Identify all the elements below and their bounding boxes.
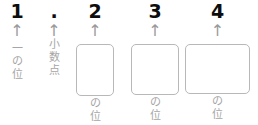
arrow-up-icon-tenths: ↑ <box>76 22 114 40</box>
decimal-place-value-diagram: 1 ↑ 一 の 位 . ↑ 小 数 点 2 ↑ の 位 3 ↑ の 位 4 <box>0 0 258 125</box>
answer-box-hundredths[interactable] <box>131 44 179 95</box>
answer-box-tenths[interactable] <box>76 44 114 96</box>
label-char: の <box>90 97 101 110</box>
digit-thousandths: 4 <box>185 1 250 22</box>
digit-decimal-point: . <box>38 1 70 22</box>
answer-box-thousandths[interactable] <box>185 44 250 94</box>
digit-hundredths: 3 <box>131 1 179 22</box>
label-char: 数 <box>49 51 60 64</box>
arrow-up-icon-thousandths: ↑ <box>185 22 250 40</box>
label-char: 一 <box>12 42 23 55</box>
column-ones: 1 ↑ 一 の 位 <box>0 0 34 125</box>
digit-ones: 1 <box>0 1 34 22</box>
label-char: 位 <box>90 110 101 123</box>
arrow-up-icon-hundredths: ↑ <box>131 22 179 40</box>
label-hundredths-place: の 位 <box>131 96 179 122</box>
label-char: 位 <box>12 68 23 81</box>
label-char: 位 <box>150 109 161 122</box>
arrow-up-icon-ones: ↑ <box>0 22 34 40</box>
label-char: 点 <box>49 64 60 77</box>
digit-tenths: 2 <box>76 1 114 22</box>
column-decimal-point: . ↑ 小 数 点 <box>38 0 70 125</box>
label-char: 位 <box>212 108 223 121</box>
label-char: の <box>150 96 161 109</box>
label-tenths-place: の 位 <box>76 97 114 123</box>
label-char: の <box>12 55 23 68</box>
label-decimal-point: 小 数 点 <box>38 38 70 77</box>
label-thousandths-place: の 位 <box>185 95 250 121</box>
label-ones-place: 一 の 位 <box>0 42 34 81</box>
label-char: の <box>212 95 223 108</box>
label-char: 小 <box>49 38 60 51</box>
